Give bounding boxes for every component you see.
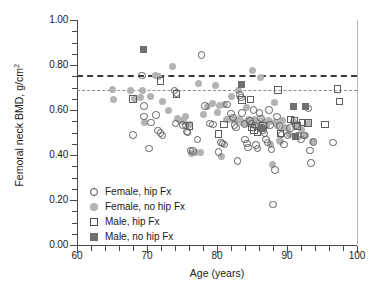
data-point-fnf (159, 98, 166, 105)
data-point-mhf (334, 85, 342, 93)
data-point-fhf (306, 147, 314, 155)
data-point-fnf (147, 93, 154, 100)
data-point-fhf (229, 114, 237, 122)
data-point-fhf (329, 139, 337, 147)
data-point-fnf (197, 149, 204, 156)
legend-label: Male, no hip Fx (105, 229, 173, 244)
y-axis-major-tick (70, 200, 77, 201)
x-axis-tick-label: 80 (197, 250, 237, 261)
data-point-fhf (198, 51, 206, 59)
data-point-mhf (274, 86, 282, 94)
data-point-fhf (268, 146, 276, 154)
scatter-chart-figure: 0.000.200.400.600.801.00 60708090100 Fem… (0, 0, 380, 296)
x-axis-minor-tick (245, 246, 246, 251)
data-point-fhf (269, 201, 277, 209)
y-axis-tick-label: 0.80 (26, 60, 68, 70)
y-axis-title: Femoral neck BMD, g/cm2 (11, 40, 26, 210)
data-point-fhf (145, 145, 153, 153)
data-point-fnf (214, 109, 221, 116)
y-axis-major-tick (70, 65, 77, 66)
right-border-rule (357, 20, 358, 245)
data-point-fhf (184, 129, 192, 137)
legend-label: Female, hip Fx (105, 184, 171, 199)
x-axis-title: Age (years) (77, 268, 357, 279)
x-axis-minor-tick (315, 246, 316, 251)
data-point-fnf (195, 80, 202, 87)
data-point-fhf (221, 141, 229, 149)
data-point-fhf (257, 115, 265, 123)
data-point-mhf (277, 130, 285, 138)
data-point-fnf (127, 87, 134, 94)
legend-label: Female, no hip Fx (105, 199, 185, 214)
x-axis-tick-label: 60 (57, 250, 97, 261)
data-point-mhf (173, 90, 181, 98)
data-point-mhf (247, 96, 255, 104)
y-axis-tick-label: 0.20 (26, 195, 68, 205)
data-point-fhf (194, 136, 202, 144)
x-axis-tick-label: 90 (267, 250, 307, 261)
data-point-mhf (336, 98, 344, 106)
data-point-fhf (238, 109, 246, 117)
x-axis-minor-tick (189, 246, 190, 251)
data-point-fhf (129, 131, 137, 139)
data-point-mhf (129, 95, 137, 103)
data-point-fnf (165, 107, 172, 114)
data-point-mhf (157, 77, 165, 85)
data-point-fhf (209, 121, 217, 129)
data-point-fnf (110, 96, 117, 103)
data-point-fhf (280, 141, 288, 149)
data-point-fhf (140, 113, 148, 121)
data-point-fnf (257, 74, 264, 81)
data-point-fhf (271, 166, 279, 174)
y-axis-major-tick (70, 155, 77, 156)
data-point-fnf (137, 94, 144, 101)
y-axis-major-tick (70, 245, 77, 246)
data-point-fnf (109, 86, 116, 93)
data-point-fhf (234, 157, 242, 165)
data-point-fhf (232, 124, 240, 132)
reference-line-male-threshold (77, 90, 357, 91)
data-point-fhf (276, 122, 284, 130)
data-point-fnf (200, 111, 207, 118)
data-point-mhf (238, 96, 246, 104)
data-point-fhf (140, 102, 148, 110)
data-point-fnf (169, 63, 176, 70)
data-point-mhf (304, 119, 312, 127)
data-point-fhf (152, 111, 160, 119)
data-point-mhf (186, 122, 194, 130)
data-point-fnf (139, 87, 146, 94)
y-axis-tick-label: 1.00 (26, 15, 68, 25)
data-point-fhf (147, 119, 155, 127)
reference-line-female-threshold (77, 75, 357, 77)
data-point-fhf (138, 72, 146, 80)
data-point-mnf (290, 103, 297, 110)
x-axis-tick-label: 100 (337, 250, 377, 261)
y-axis-major-tick (70, 110, 77, 111)
data-point-mnf (302, 103, 309, 110)
data-point-fnf (249, 67, 256, 74)
data-point-fhf (201, 102, 209, 110)
data-point-fhf (266, 121, 274, 129)
x-axis-minor-tick (105, 246, 106, 251)
data-point-fhf (265, 106, 273, 114)
data-point-fnf (271, 99, 278, 106)
data-point-mnf (140, 46, 147, 53)
data-point-mhf (321, 121, 329, 129)
data-point-fnf (182, 113, 189, 120)
data-point-fhf (189, 147, 197, 155)
y-axis-tick-label: 0.00 (26, 240, 68, 250)
data-point-fnf (212, 82, 219, 89)
legend-label: Male, hip Fx (105, 214, 159, 229)
data-point-mnf (258, 125, 265, 132)
data-point-fnf (228, 93, 235, 100)
y-axis-tick-label: 0.60 (26, 105, 68, 115)
legend-marker-fhf-icon (90, 188, 98, 196)
data-point-fhf (284, 132, 292, 140)
y-axis-tick-label: 0.40 (26, 150, 68, 160)
data-point-fhf (310, 138, 318, 146)
x-axis-tick-label: 70 (127, 250, 167, 261)
data-point-fhf (300, 132, 308, 140)
x-axis-minor-tick (329, 246, 330, 251)
data-point-fhf (273, 113, 281, 121)
x-axis-minor-tick (259, 246, 260, 251)
